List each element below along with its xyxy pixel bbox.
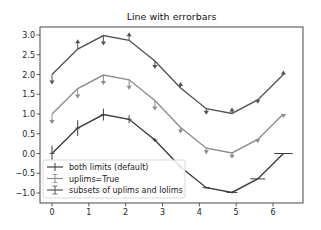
errorbar-chart: Line with errorbars 0123456 −1.0−0.50.00… — [0, 0, 321, 230]
arrow-down-marker — [49, 120, 54, 124]
y-tick-label: 3.0 — [22, 31, 35, 40]
chart-title: Line with errorbars — [127, 11, 217, 22]
y-tick-label: 2.0 — [22, 71, 35, 80]
legend: both limits (default)uplims=Truesubsets … — [43, 160, 185, 198]
arrow-down-marker — [152, 65, 157, 69]
arrow-down-marker — [101, 81, 106, 85]
arrow-down-marker — [127, 86, 132, 90]
y-tick-label: 2.5 — [22, 51, 35, 60]
x-tick-label: 4 — [197, 208, 202, 217]
series-3 — [49, 32, 286, 114]
series-2 — [49, 75, 286, 159]
y-tick-label: 0.5 — [22, 130, 35, 139]
arrow-up-marker — [229, 107, 234, 111]
arrow-up-marker — [127, 32, 132, 36]
arrow-down-marker — [204, 111, 209, 115]
x-tick-label: 2 — [123, 208, 128, 217]
arrow-down-marker — [229, 155, 234, 159]
arrow-up-marker — [178, 82, 183, 86]
legend-label: subsets of uplims and lolims — [69, 186, 183, 195]
arrow-down-marker — [204, 150, 209, 154]
series-line — [52, 75, 283, 153]
y-tick-label: 1.5 — [22, 90, 35, 99]
arrow-down-marker — [49, 80, 54, 84]
arrow-down-marker — [75, 95, 80, 99]
arrow-up-marker — [75, 39, 80, 43]
arrow-down-marker — [152, 106, 157, 110]
series-line — [52, 36, 283, 114]
arrow-down-marker — [101, 41, 106, 45]
y-tick-label: 0.0 — [22, 150, 35, 159]
arrow-up-marker — [281, 71, 286, 75]
arrow-down-marker — [255, 139, 260, 143]
x-axis: 0123456 — [49, 203, 275, 217]
x-tick-label: 0 — [49, 208, 54, 217]
y-tick-label: −0.5 — [16, 169, 35, 178]
arrow-down-marker — [255, 100, 260, 104]
y-axis: −1.0−0.50.00.51.01.52.02.53.0 — [16, 31, 40, 198]
y-tick-label: −1.0 — [16, 189, 35, 198]
arrow-down-marker — [178, 129, 183, 133]
legend-label: both limits (default) — [69, 163, 148, 172]
x-tick-label: 5 — [234, 208, 239, 217]
y-tick-label: 1.0 — [22, 110, 35, 119]
x-tick-label: 3 — [160, 208, 165, 217]
legend-label: uplims=True — [69, 175, 119, 184]
x-tick-label: 6 — [270, 208, 275, 217]
x-tick-label: 1 — [86, 208, 91, 217]
